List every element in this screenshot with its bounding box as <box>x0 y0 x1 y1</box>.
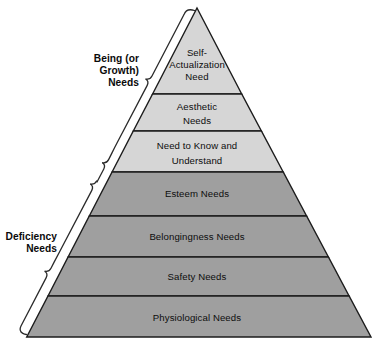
tier-label-aesthetic-line1: Aesthetic <box>177 101 217 112</box>
tier-label-need-to-know-line1: Need to Know and <box>157 140 238 151</box>
tier-label-physiological: Physiological Needs <box>153 312 241 323</box>
group-label-deficiency-line2: Needs <box>26 243 57 254</box>
tier-label-belongingness: Belongingness Needs <box>149 231 244 242</box>
tier-label-need-to-know-line2: Understand <box>172 155 223 166</box>
group-label-deficiency-line1: Deficiency <box>6 231 58 242</box>
pyramid-diagram: Self- Actualization Need Aesthetic Needs… <box>0 0 387 346</box>
tier-label-aesthetic-line2: Needs <box>183 115 211 126</box>
tier-label-self-actualization-line3: Need <box>185 71 208 82</box>
group-label-being-line3: Needs <box>108 77 139 88</box>
tier-label-safety: Safety Needs <box>168 271 227 282</box>
group-label-being-line2: Growth) <box>100 65 139 76</box>
group-label-being-line1: Being (or <box>94 53 139 64</box>
hierarchy-of-needs-figure: Self- Actualization Need Aesthetic Needs… <box>0 0 387 346</box>
tier-label-esteem: Esteem Needs <box>165 188 229 199</box>
tier-label-self-actualization-line1: Self- <box>187 47 207 58</box>
tier-label-self-actualization-line2: Actualization <box>169 59 225 70</box>
